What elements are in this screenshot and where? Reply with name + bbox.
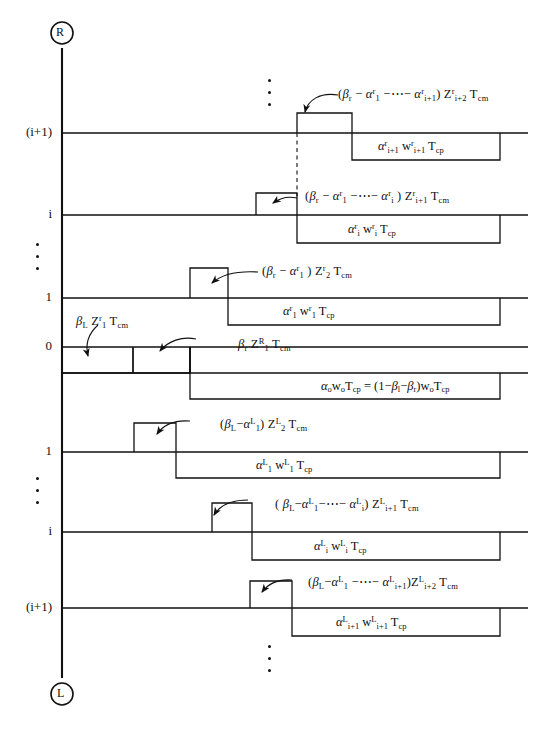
axis-ellipsis-lower — [36, 477, 39, 513]
axis-tick-r-1: 1 — [0, 289, 52, 305]
annotation-zero-left: βL Zr1 Tcm — [76, 313, 128, 330]
axis-tick-zero: 0 — [0, 338, 52, 354]
axis-tick-r-i: i — [0, 206, 52, 222]
callout-arrow-r-i-plus-1 — [305, 94, 338, 112]
top-ellipsis — [268, 79, 271, 115]
boxlabel-zero: αowoTcp = (1−βl−βr)woTcp — [321, 379, 449, 394]
annotation-l-i-plus-1: (βL−αL1 −⋯− αLi+1)ZLi+2 Tcm — [308, 574, 458, 591]
axis-endpoint-R-label: R — [56, 25, 64, 40]
annotation-zero-right: βr ZR1 Tcm — [238, 336, 291, 353]
boxlabel-r-i-plus-1: αri+1 wri+1 Tcp — [378, 138, 444, 155]
boxlabel-l-i-plus-1: αLi+1 wLi+1 Tcp — [336, 614, 407, 631]
axis-ellipsis-upper — [36, 243, 39, 279]
annotation-l-1: (βL−αL1) ZL2 Tcm — [220, 416, 307, 433]
bottom-ellipsis — [268, 645, 271, 681]
callout-arrow-l-i — [214, 500, 248, 515]
axis-tick-r-i-plus-1: (i+1) — [0, 124, 52, 140]
row-r-i-plus-1-waveform — [62, 113, 528, 196]
row-l-i-plus-1-waveform — [62, 581, 528, 636]
boxlabel-l-i: αLi wLi Tcp — [314, 538, 366, 555]
annotation-l-i: ( βL−αL1−⋯− αLi) ZLi+1 Tcm — [275, 496, 419, 513]
callout-arrow-zero-left — [87, 325, 98, 356]
callout-arrow-r-1 — [212, 272, 258, 283]
boxlabel-l-1: αL1 wL1 Tcp — [256, 457, 312, 474]
waveform-vector-layer — [0, 0, 549, 740]
boxlabel-r-i: αri wri Tcp — [348, 221, 396, 238]
annotation-r-i-plus-1: (βr − αr1 −⋯− αri+1) Zri+2 Tcm — [338, 86, 488, 103]
annotation-r-1: (βr − αr1 ) Zr2 Tcm — [262, 263, 352, 280]
axis-tick-l-i: i — [0, 523, 52, 539]
row-zero-waveform — [62, 347, 528, 399]
boxlabel-r-1: αr1 wr1 Tcp — [283, 303, 334, 320]
annotation-r-i: (βr − αr1 −⋯− αri ) Zri+1 Tcm — [305, 188, 449, 205]
row-r-i-waveform — [62, 193, 528, 243]
callout-arrow-l-i-plus-1 — [262, 580, 292, 592]
callout-arrow-r-i — [273, 197, 297, 203]
axis-tick-l-i-plus-1: (i+1) — [0, 599, 52, 615]
axis-endpoint-L-label: L — [57, 686, 64, 701]
axis-tick-l-1: 1 — [0, 443, 52, 459]
figure-canvas: R L (i+1) i 1 0 1 i (i+1) (βr − αr1 −⋯− … — [0, 0, 549, 740]
